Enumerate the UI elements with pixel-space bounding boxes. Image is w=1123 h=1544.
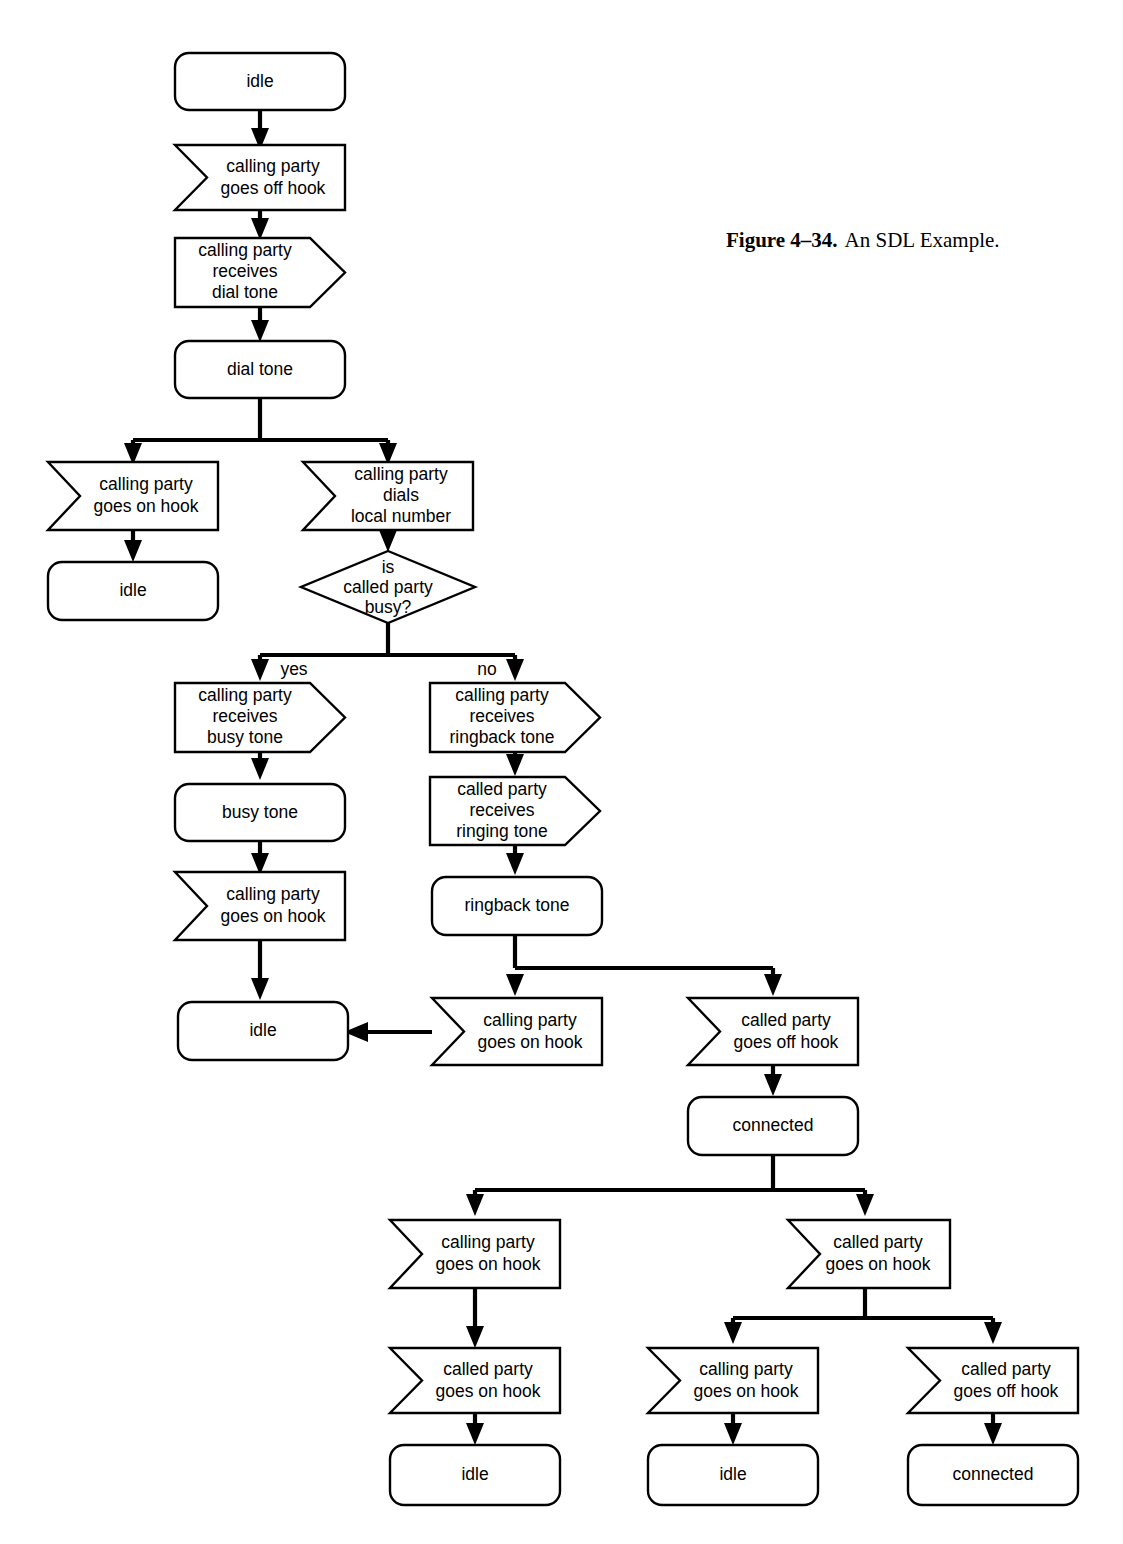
node-label-line-2: receives [212,261,277,281]
node-label-line-2: receives [212,706,277,726]
node-label-line-3: local number [351,506,451,526]
node-n19-input[interactable]: calling party goes on hook [390,1220,560,1288]
node-label-line-1: calling party [99,474,193,494]
node-label-line-2: goes on hook [93,496,198,516]
connector-n15-split [515,935,773,982]
node-label-line-2: receives [469,800,534,820]
node-label-line-1: calling party [354,464,448,484]
arrow-head-n23-n24 [724,1423,742,1445]
node-label-line-3: busy tone [207,727,283,747]
node-n2-input[interactable]: calling party goes off hook [175,145,345,210]
node-label-line-3: ringing tone [456,821,547,841]
node-label: connected [733,1115,814,1135]
node-label-line-2: goes on hook [825,1254,930,1274]
node-n17-input[interactable]: called party goes off hook [688,998,858,1065]
arrow-head-n18-n19 [466,1194,484,1216]
node-label-line-1: calling party [226,156,320,176]
node-label: busy tone [222,802,298,822]
node-n7-input[interactable]: calling party dials local number [303,462,473,530]
arrow-head-n7-n8 [379,530,397,552]
arrow-head-n20-n23 [724,1322,742,1344]
node-n23-input[interactable]: calling party goes on hook [648,1348,818,1413]
arrow-head-n15-n16 [506,974,524,996]
node-n11-input[interactable]: calling party goes on hook [175,872,345,940]
node-label-line-1: called party [961,1359,1051,1379]
node-label-line-2: goes on hook [435,1381,540,1401]
arrow-head-n18-n20 [856,1194,874,1216]
node-n8-decision[interactable]: is called party busy? [301,551,475,623]
node-n22-state-idle[interactable]: idle [390,1445,560,1505]
node-n10-state-busy-tone[interactable]: busy tone [175,784,345,841]
node-label: connected [953,1464,1034,1484]
arrow-head-n25-n26 [984,1423,1002,1445]
node-n13-output[interactable]: calling party receives ringback tone [430,683,600,752]
node-n21-input[interactable]: called party goes on hook [390,1348,560,1413]
node-n3-output[interactable]: calling party receives dial tone [175,238,345,307]
node-label-line-2: goes on hook [693,1381,798,1401]
node-n6-state-idle[interactable]: idle [48,562,218,620]
node-label-line-1: is [382,557,395,577]
arrow-head-n11-n12 [251,978,269,1000]
node-label-line-3: ringback tone [449,727,554,747]
arrow-head-n15-n17 [764,974,782,996]
node-n20-input[interactable]: called party goes on hook [788,1220,950,1288]
node-label-line-2: goes on hook [220,906,325,926]
node-label-line-1: calling party [455,685,549,705]
node-label-line-1: calling party [226,884,320,904]
node-label-line-1: calling party [699,1359,793,1379]
node-label-line-2: goes on hook [435,1254,540,1274]
node-label-line-1: calling party [198,685,292,705]
arrow-head-n5-n6 [124,540,142,562]
arrow-head-n14-n15 [506,853,524,875]
node-label: idle [249,1020,276,1040]
node-label-line-2: goes on hook [477,1032,582,1052]
node-n9-output[interactable]: calling party receives busy tone [175,683,345,752]
connector-n4-split [133,398,388,452]
node-n5-input[interactable]: calling party goes on hook [48,462,218,530]
node-label-line-2: goes off hook [954,1381,1059,1401]
node-label-line-2: called party [343,577,433,597]
node-label-line-1: called party [833,1232,923,1252]
branch-label-no: no [477,659,496,679]
sdl-diagram: idle calling party goes off hook calling… [0,0,1123,1544]
arrow-head-n2-n3 [251,218,269,240]
node-n26-state-connected[interactable]: connected [908,1445,1078,1505]
node-label: idle [719,1464,746,1484]
arrow-head-n3-n4 [251,320,269,342]
node-label-line-3: busy? [365,597,412,617]
node-n12-state-idle[interactable]: idle [178,1002,348,1060]
node-n15-state-ringback-tone[interactable]: ringback tone [432,877,602,935]
node-label: ringback tone [464,895,569,915]
node-label-line-3: dial tone [212,282,278,302]
branch-label-yes: yes [280,659,307,679]
node-label-line-1: calling party [198,240,292,260]
node-label: idle [461,1464,488,1484]
node-n18-state-connected[interactable]: connected [688,1097,858,1155]
node-label-line-2: goes off hook [221,178,326,198]
node-n1-state-idle[interactable]: idle [175,53,345,110]
node-n24-state-idle[interactable]: idle [648,1445,818,1505]
node-label: dial tone [227,359,293,379]
arrow-head-n13-n14 [506,754,524,776]
node-n14-output[interactable]: called party receives ringing tone [430,777,600,845]
arrow-head-n19-n21 [466,1326,484,1348]
node-label-line-1: called party [443,1359,533,1379]
node-label-line-1: calling party [441,1232,535,1252]
node-label: idle [246,71,273,91]
node-label-line-1: called party [457,779,547,799]
arrow-head-n20-n25 [984,1322,1002,1344]
node-label: idle [119,580,146,600]
arrow-head-yes [251,659,269,681]
node-n25-input[interactable]: called party goes off hook [908,1348,1078,1413]
node-n4-state-dial-tone[interactable]: dial tone [175,341,345,398]
node-label-line-2: dials [383,485,419,505]
node-label-line-1: called party [741,1010,831,1030]
node-label-line-1: calling party [483,1010,577,1030]
node-n16-input[interactable]: calling party goes on hook [432,998,602,1065]
arrow-head-n17-n18 [764,1074,782,1096]
connector-n20-split [733,1288,993,1330]
arrow-head-n9-n10 [251,758,269,780]
node-label-line-2: receives [469,706,534,726]
connector-n18-split [475,1155,865,1202]
arrow-head-n21-n22 [466,1423,484,1445]
